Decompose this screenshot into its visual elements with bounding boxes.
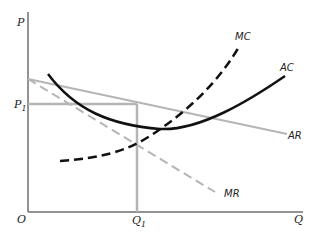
mc-label: MC xyxy=(235,31,251,42)
mr-curve xyxy=(28,79,215,192)
economics-diagram: P O Q P1 Q1 MC AC AR MR xyxy=(0,0,316,243)
q1-label-main: Q xyxy=(132,214,141,227)
q1-label: Q1 xyxy=(132,214,146,229)
p1-label-sub: 1 xyxy=(21,104,26,113)
p1-label: P1 xyxy=(13,98,27,113)
ar-label: AR xyxy=(287,130,302,141)
mr-label: MR xyxy=(224,188,240,199)
q1-label-sub: 1 xyxy=(141,220,146,229)
y-axis-label: P xyxy=(16,16,25,29)
origin-label: O xyxy=(17,213,26,226)
ac-curve xyxy=(48,74,285,129)
ar-curve xyxy=(28,79,287,134)
ac-label: AC xyxy=(279,62,294,73)
x-axis-label: Q xyxy=(294,213,303,226)
